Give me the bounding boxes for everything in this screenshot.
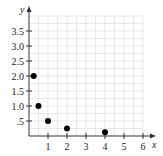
y-tick-label: 2.5	[12, 56, 25, 67]
x-tick-label: 1	[46, 141, 51, 152]
y-tick-label: 3.5	[12, 26, 25, 37]
axes	[27, 6, 157, 139]
x-tick-label: 6	[141, 141, 146, 152]
scatter-chart: 123456.51.01.52.02.53.03.5 x y	[0, 0, 163, 156]
x-tick-label: 5	[122, 141, 127, 152]
data-point	[45, 118, 51, 124]
y-tick-label: .5	[17, 116, 25, 127]
ticks	[26, 31, 143, 139]
x-axis-arrow-icon	[150, 134, 156, 139]
x-tick-label: 3	[84, 141, 89, 152]
y-tick-label: 1.0	[12, 101, 25, 112]
y-tick-label: 3.0	[12, 41, 25, 52]
y-tick-label: 2.0	[12, 71, 25, 82]
y-axis-label: y	[19, 4, 25, 15]
y-axis-arrow-icon	[27, 6, 32, 12]
y-tick-label: 1.5	[12, 86, 25, 97]
tick-labels: 123456.51.01.52.02.53.03.5	[12, 26, 146, 153]
data-points	[31, 73, 108, 135]
x-tick-label: 4	[103, 141, 108, 152]
data-point	[36, 103, 42, 109]
data-point	[102, 129, 108, 135]
x-tick-label: 2	[65, 141, 70, 152]
x-axis-label: x	[151, 139, 157, 150]
data-point	[31, 73, 37, 79]
data-point	[64, 126, 70, 132]
grid	[29, 16, 143, 136]
